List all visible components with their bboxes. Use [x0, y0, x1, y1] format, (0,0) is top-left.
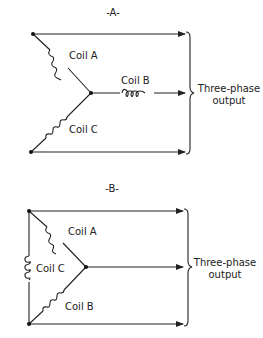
output-label-line2: output: [213, 95, 246, 106]
coil-c-icon: [31, 93, 91, 152]
coil-b-icon: [120, 87, 154, 97]
coil-a-label: Coil A: [69, 50, 98, 61]
terminal-dot: [27, 322, 31, 326]
coil-c-label: Coil C: [69, 124, 98, 135]
diagram-a-title: -A-: [106, 7, 120, 18]
terminal-dot: [31, 32, 35, 36]
output-label-line1: Three-phase: [197, 83, 260, 94]
diagram-a: -A- Coil A Coil B Coil C Three-ph: [29, 7, 260, 154]
schematic-canvas: -A- Coil A Coil B Coil C Three-ph: [0, 0, 263, 338]
brace-icon: [186, 32, 194, 154]
diagram-b: -B- Coil A Coil C Coil B Three-phase: [25, 183, 256, 326]
coil-b-label: Coil B: [121, 75, 150, 86]
coil-b-label: Coil B: [65, 301, 94, 312]
coil-a-icon: [29, 211, 86, 267]
coil-a-label: Coil A: [68, 226, 97, 237]
output-label-line1: Three-phase: [193, 257, 256, 268]
diagram-b-title: -B-: [105, 183, 119, 194]
coil-a-icon: [33, 34, 91, 93]
terminal-dot: [27, 209, 31, 213]
neutral-node-dot: [89, 91, 93, 95]
terminal-dot: [29, 150, 33, 154]
coil-c-label: Coil C: [36, 263, 65, 274]
output-label-line2: output: [209, 269, 242, 280]
brace-icon: [184, 209, 192, 326]
coil-c-icon: [25, 211, 31, 324]
coil-b-icon: [29, 267, 86, 324]
node-dot: [84, 265, 88, 269]
